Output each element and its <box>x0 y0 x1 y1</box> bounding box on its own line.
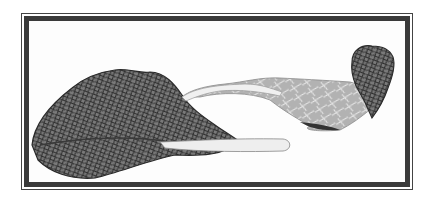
leaf-illustration <box>0 0 437 207</box>
left-leaf <box>32 70 240 179</box>
